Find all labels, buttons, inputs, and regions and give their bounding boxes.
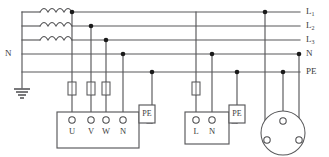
bus-label-L1: L1	[306, 6, 315, 17]
bus-label-PE: PE	[306, 66, 317, 76]
round-plug-socket[interactable]	[261, 111, 305, 155]
bus-label-L1-sub: 1	[312, 11, 315, 17]
junction-dots	[70, 10, 302, 75]
bus-label-L3-sub: 3	[312, 39, 315, 45]
left-label-n: N	[5, 48, 12, 58]
dot-PE-right	[235, 70, 240, 75]
fuse-L	[192, 82, 200, 95]
dot-N-right	[210, 52, 215, 57]
dot-N-left	[121, 52, 126, 57]
dot-L1-left	[70, 10, 75, 15]
round-socket-pin-l	[264, 137, 270, 143]
svg-text:N: N	[5, 48, 12, 58]
earth-ground-icon	[14, 89, 30, 98]
svg-text:L3: L3	[306, 34, 315, 45]
transformer-winding-L3	[40, 37, 72, 41]
svg-text:L1: L1	[306, 6, 315, 17]
dot-L2-left	[89, 24, 94, 29]
terminal-label-n-right: N	[209, 126, 215, 136]
single-phase-socket-pe-tab[interactable]: PE	[229, 105, 245, 123]
dot-L3-left	[104, 38, 109, 43]
bus-label-N: N	[306, 48, 313, 58]
fuse-W	[102, 82, 110, 95]
single-phase-socket-box[interactable]	[185, 112, 229, 144]
fuse-V	[87, 82, 95, 95]
fuse-U	[68, 82, 76, 95]
round-socket-pin-n	[296, 137, 302, 143]
transformer-winding-L2	[40, 23, 72, 27]
terminal-label-v: V	[88, 126, 95, 136]
terminal-label-l: L	[193, 126, 198, 136]
dot-PE-plug	[281, 70, 286, 75]
schematic-canvas: PE U V W N	[0, 0, 329, 157]
bus-label-L2: L2	[306, 20, 315, 31]
transformer-winding-L1	[40, 9, 72, 13]
dot-L1-plug	[263, 10, 268, 15]
three-phase-socket-pe-tab[interactable]: PE	[139, 105, 155, 123]
pe-tab-label-left: PE	[142, 109, 151, 118]
svg-text:N: N	[306, 48, 313, 58]
bus-label-L3: L3	[306, 34, 315, 45]
pe-tab-label-right: PE	[232, 109, 241, 118]
terminal-label-n-left: N	[120, 126, 126, 136]
terminal-label-w: W	[102, 126, 110, 136]
svg-text:L2: L2	[306, 20, 315, 31]
bus-label-L2-sub: 2	[312, 25, 315, 31]
terminal-label-u: U	[69, 126, 75, 136]
round-socket-pin-pe	[280, 118, 286, 124]
dot-PE-left	[150, 70, 155, 75]
dot-N-plug	[297, 52, 302, 57]
circuit-diagram: PE U V W N	[0, 0, 329, 157]
svg-text:PE: PE	[306, 66, 317, 76]
